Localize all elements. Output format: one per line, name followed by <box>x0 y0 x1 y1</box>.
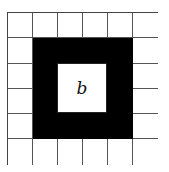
grid-cell <box>83 139 108 164</box>
grid-cell <box>8 13 33 38</box>
grid-cell <box>108 114 133 139</box>
grid-cell <box>133 89 158 114</box>
grid-cell <box>33 139 58 164</box>
grid-cell <box>108 89 133 114</box>
grid-cell <box>133 114 158 139</box>
grid-cell <box>83 114 108 139</box>
grid-cell <box>108 13 133 38</box>
grid-cell <box>8 64 33 89</box>
grid-cell <box>58 38 83 63</box>
grid-cell <box>58 114 83 139</box>
grid-cell <box>8 139 33 164</box>
grid-cell <box>83 38 108 63</box>
grid-cell <box>8 114 33 139</box>
grid-cell <box>108 139 133 164</box>
grid-cell <box>33 89 58 114</box>
grid-cell <box>8 89 33 114</box>
grid-cell <box>108 64 133 89</box>
grid-cell <box>58 139 83 164</box>
inner-square: b <box>57 63 107 113</box>
grid-cell <box>133 13 158 38</box>
grid-cell <box>8 38 33 63</box>
grid-cell <box>33 64 58 89</box>
grid-cell <box>133 139 158 164</box>
grid-cell <box>133 64 158 89</box>
grid-cell <box>133 38 158 63</box>
inner-label: b <box>77 78 88 98</box>
grid-cell <box>108 38 133 63</box>
grid-cell <box>33 38 58 63</box>
grid-cell <box>58 13 83 38</box>
grid-cell <box>33 114 58 139</box>
grid-cell <box>83 13 108 38</box>
grid-cell <box>33 13 58 38</box>
